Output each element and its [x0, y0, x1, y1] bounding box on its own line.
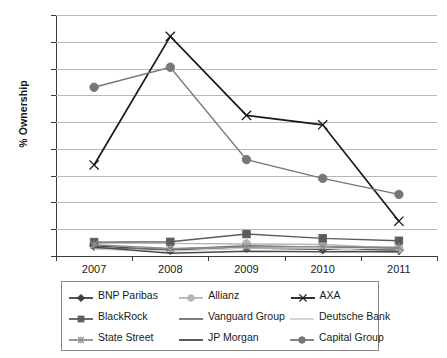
legend-label: State Street [98, 332, 153, 343]
legend-marker-circle-icon [289, 332, 315, 344]
legend-label: BNP Paribas [98, 290, 158, 301]
legend-item-bnp-paribas[interactable]: BNP Paribas [62, 285, 178, 306]
legend-item-allianz[interactable]: Allianz [178, 285, 289, 306]
data-point-x [90, 160, 99, 169]
legend-label: Deutsche Bank [319, 311, 390, 322]
legend-item-jp-morgan[interactable]: JP Morgan [178, 327, 289, 348]
legend-item-vanguard-group[interactable]: Vanguard Group [178, 306, 289, 327]
legend-marker-none-icon [178, 311, 204, 323]
legend-item-blackrock[interactable]: BlackRock [62, 306, 178, 327]
x-tick-mark [361, 256, 362, 261]
data-point-square [319, 235, 326, 242]
legend-item-deutsche-bank[interactable]: Deutsche Bank [289, 306, 378, 327]
data-point-circle [395, 190, 403, 198]
legend-marker-square-icon [68, 311, 94, 323]
series-axa [90, 32, 404, 226]
x-tick-mark [208, 256, 209, 261]
series-line [94, 36, 399, 221]
legend-label: Capital Group [319, 332, 384, 343]
chart-legend: BNP ParibasAllianzAXABlackRockVanguard G… [61, 281, 379, 351]
data-point-square [243, 230, 250, 237]
y-axis-title: % Ownership [17, 59, 29, 169]
legend-label: Vanguard Group [208, 311, 285, 322]
legend-item-axa[interactable]: AXA [290, 285, 378, 306]
x-tick-mark [437, 256, 438, 261]
legend-label: BlackRock [98, 311, 148, 322]
x-tick-label: 2011 [369, 263, 429, 275]
legend-label: JP Morgan [208, 332, 259, 343]
legend-label: Allianz [208, 290, 239, 301]
data-point-square [78, 316, 84, 322]
legend-row: State StreetJP MorganCapital Group [62, 327, 378, 348]
legend-marker-diamond-icon [68, 290, 94, 302]
legend-row: BNP ParibasAllianzAXA [62, 285, 378, 306]
data-point-circle [242, 155, 250, 163]
legend-marker-none-icon [178, 332, 204, 344]
legend-marker-x-icon [290, 290, 316, 302]
x-tick-mark [56, 256, 57, 261]
data-point-circle [319, 174, 327, 182]
x-tick-label: 2008 [140, 263, 200, 275]
legend-marker-none-icon [289, 311, 315, 323]
data-point-x [394, 217, 403, 226]
data-point-x [166, 32, 175, 41]
x-tick-label: 2009 [217, 263, 277, 275]
data-point-circle [188, 294, 195, 301]
data-point-diamond [77, 294, 84, 301]
x-tick-mark [285, 256, 286, 261]
x-axis-line [56, 256, 438, 257]
legend-label: AXA [320, 290, 341, 301]
series-capital-group [90, 63, 403, 199]
data-point-circle [299, 336, 306, 343]
line-chart: % Ownership 0123456789 20072008200920102… [0, 0, 447, 358]
legend-marker-circle-icon [178, 290, 204, 302]
x-tick-label: 2007 [64, 263, 124, 275]
legend-item-capital-group[interactable]: Capital Group [289, 327, 378, 348]
legend-marker-star-icon [68, 332, 94, 344]
x-tick-label: 2010 [293, 263, 353, 275]
legend-item-state-street[interactable]: State Street [62, 327, 178, 348]
data-point-circle [90, 83, 98, 91]
x-tick-mark [132, 256, 133, 261]
series-plot [56, 15, 437, 256]
data-point-circle [166, 63, 174, 71]
legend-row: BlackRockVanguard GroupDeutsche Bank [62, 306, 378, 327]
